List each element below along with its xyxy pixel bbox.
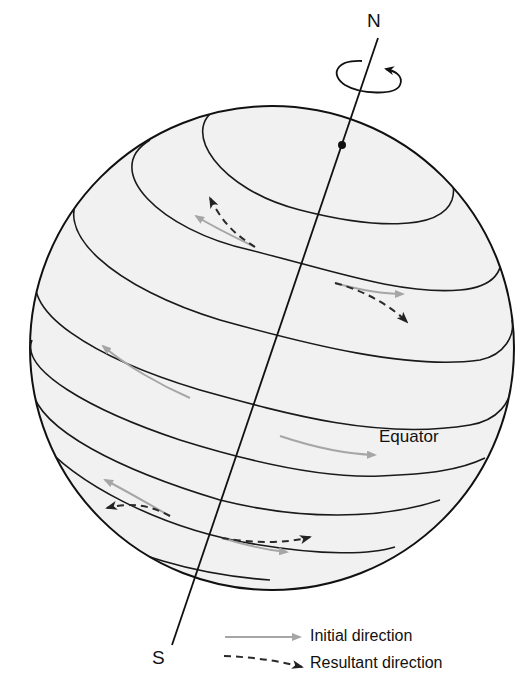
north-pole-dot bbox=[338, 141, 346, 149]
legend-resultant-arrow-icon bbox=[224, 656, 302, 667]
legend-initial-label: Initial direction bbox=[310, 627, 412, 645]
coriolis-diagram bbox=[0, 0, 526, 700]
north-pole-label: N bbox=[367, 10, 381, 32]
equator-label: Equator bbox=[379, 427, 439, 447]
south-pole-label: S bbox=[152, 647, 165, 669]
legend-resultant-label: Resultant direction bbox=[310, 654, 443, 672]
